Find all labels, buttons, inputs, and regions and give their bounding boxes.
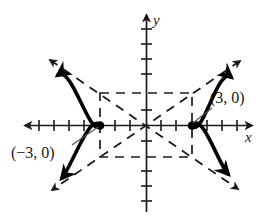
axes-group [25,15,252,212]
vertex-dot-left [96,121,105,130]
left-vertex-label: (−3, 0) [11,144,55,162]
y-axis-label: y [151,12,160,28]
right-vertex-label: (3, 0) [210,89,245,107]
asymptote-negative-slope [50,60,238,189]
hyperbola-figure: y x (3, 0) (−3, 0) [0,0,268,218]
leader-line-left-vertex [72,127,98,145]
hyperbola-graph-canvas: y x (3, 0) (−3, 0) [0,0,268,218]
vertex-dot-right [188,121,197,130]
x-axis-label: x [244,129,252,145]
